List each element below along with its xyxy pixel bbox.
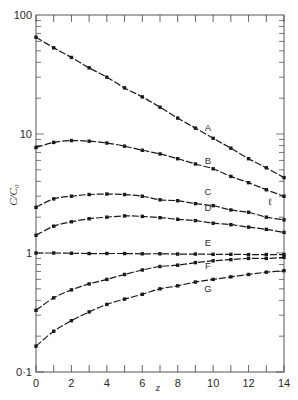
data-point	[229, 258, 232, 261]
x-tick-label: 4	[104, 377, 110, 389]
data-point	[211, 204, 214, 207]
data-point	[229, 146, 232, 149]
series-g	[34, 269, 285, 348]
data-point	[194, 126, 197, 129]
data-point	[282, 269, 285, 272]
data-point	[123, 144, 126, 147]
data-point	[211, 137, 214, 140]
data-point	[52, 330, 55, 333]
data-point	[176, 199, 179, 202]
data-point	[194, 219, 197, 222]
data-point	[105, 141, 108, 144]
series-e	[34, 251, 285, 256]
data-point	[211, 222, 214, 225]
data-point	[247, 225, 250, 228]
data-point	[34, 206, 37, 209]
data-point	[229, 275, 232, 278]
data-point	[158, 152, 161, 155]
data-point	[123, 214, 126, 217]
data-point	[123, 297, 126, 300]
data-point	[34, 234, 37, 237]
data-point	[141, 268, 144, 271]
data-point	[247, 273, 250, 276]
data-point	[52, 141, 55, 144]
series-line	[36, 271, 284, 346]
data-point	[176, 252, 179, 255]
data-point	[34, 309, 37, 312]
data-point	[229, 175, 232, 178]
data-point	[194, 261, 197, 264]
data-point	[282, 256, 285, 259]
data-point	[229, 253, 232, 256]
x-tick-label: 2	[68, 377, 74, 389]
data-point	[247, 211, 250, 214]
data-point	[265, 228, 268, 231]
data-point	[282, 176, 285, 179]
x-tick-label: 10	[207, 377, 219, 389]
data-point	[87, 282, 90, 285]
data-point	[34, 146, 37, 149]
data-point	[52, 224, 55, 227]
data-point	[176, 218, 179, 221]
data-point	[87, 252, 90, 255]
data-point	[105, 192, 108, 195]
data-point	[265, 188, 268, 191]
series-line	[36, 194, 284, 220]
data-point	[158, 216, 161, 219]
data-point	[123, 252, 126, 255]
data-point	[229, 223, 232, 226]
data-point	[194, 280, 197, 283]
data-point	[158, 105, 161, 108]
data-point	[52, 251, 55, 254]
data-point	[194, 202, 197, 205]
data-point	[194, 252, 197, 255]
data-point	[105, 278, 108, 281]
data-point	[123, 193, 126, 196]
data-point	[247, 181, 250, 184]
data-point	[141, 95, 144, 98]
y-axis-title: C/C₀	[7, 184, 19, 206]
x-tick-label: 6	[139, 377, 145, 389]
data-point	[265, 257, 268, 260]
data-point	[123, 86, 126, 89]
data-point	[87, 139, 90, 142]
data-point	[70, 252, 73, 255]
y-tick-label: 100	[14, 9, 32, 21]
plot-frame	[36, 15, 284, 372]
data-point	[211, 259, 214, 262]
series-label-g: G	[204, 283, 211, 294]
data-point	[70, 139, 73, 142]
series-label-c: C	[204, 186, 211, 197]
data-point	[34, 251, 37, 254]
data-point	[70, 319, 73, 322]
data-point	[87, 66, 90, 69]
series-layer	[34, 36, 285, 348]
data-point	[265, 270, 268, 273]
data-point	[265, 166, 268, 169]
data-point	[87, 193, 90, 196]
data-point	[176, 157, 179, 160]
data-point	[282, 195, 285, 198]
data-point	[211, 167, 214, 170]
x-tick-label: 0	[33, 377, 39, 389]
data-point	[141, 215, 144, 218]
data-point	[176, 284, 179, 287]
data-point	[229, 208, 232, 211]
data-point	[158, 265, 161, 268]
series-b	[34, 139, 285, 198]
series-label-b: B	[205, 155, 211, 166]
data-point	[52, 296, 55, 299]
data-point	[141, 195, 144, 198]
data-point	[194, 162, 197, 165]
data-point	[211, 278, 214, 281]
data-point	[34, 344, 37, 347]
y-tick-label: 1	[26, 247, 32, 259]
x-axis-title: z	[155, 381, 161, 393]
data-point	[70, 288, 73, 291]
data-point	[70, 56, 73, 59]
series-labels: ABCDEFGℓ	[204, 122, 272, 294]
series-line	[36, 141, 284, 197]
y-tick-label: 10	[20, 128, 32, 140]
data-point	[70, 220, 73, 223]
data-point	[158, 252, 161, 255]
